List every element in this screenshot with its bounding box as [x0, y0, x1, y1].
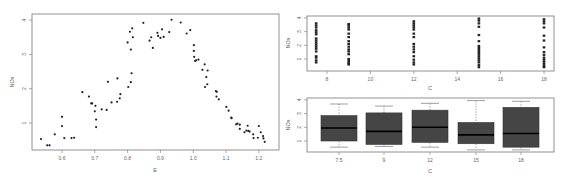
strip-c-point — [478, 22, 481, 24]
scatter-e-ytick-label: 1 — [21, 121, 27, 124]
scatter-e-point — [157, 35, 159, 37]
scatter-e-point — [218, 98, 220, 100]
strip-c-point — [543, 26, 546, 28]
scatter-e-point — [116, 77, 118, 79]
strip-c-point — [413, 20, 416, 22]
box-c-ytick-label: 2 — [296, 126, 302, 129]
strip-c-point — [315, 29, 318, 31]
scatter-e-xtick-label: 0.7 — [91, 155, 98, 161]
scatter-e-point — [46, 144, 48, 146]
box-c-box-group — [321, 104, 357, 147]
scatter-e-frame — [32, 14, 279, 150]
strip-c-point — [315, 24, 318, 26]
strip-c-point — [413, 33, 416, 35]
scatter-e-point — [119, 93, 121, 95]
scatter-e-point — [48, 144, 50, 146]
box-c-xtick-label: 15 — [473, 157, 479, 163]
scatter-e-point — [163, 36, 165, 38]
strip-c-point — [413, 43, 416, 45]
box-c-xtick-label: 9 — [383, 157, 386, 163]
strip-c-point — [347, 58, 350, 60]
box-c-ytick-label: 1 — [296, 139, 302, 142]
scatter-e-point — [239, 128, 241, 130]
strip-c-point — [543, 63, 546, 65]
strip-c-point — [347, 43, 350, 45]
box-c-box-group — [412, 103, 448, 147]
strip-c-point — [478, 26, 481, 28]
strip-c-point — [413, 55, 416, 57]
scatter-e-point — [101, 108, 103, 110]
strip-c-point — [543, 46, 546, 48]
scatter-e-point — [230, 117, 232, 119]
scatter-e-point — [204, 63, 206, 65]
scatter-e-point — [262, 137, 264, 139]
strip-c-xtick-label: 8 — [326, 76, 329, 82]
strip-c-point — [347, 40, 350, 42]
scatter-e-point — [216, 91, 218, 93]
scatter-e-point — [245, 129, 247, 131]
strip-c-point — [413, 61, 416, 63]
strip-c-point — [315, 48, 318, 50]
strip-c-point — [478, 45, 481, 47]
scatter-e-point — [257, 137, 259, 139]
strip-c-xtick-label: 14 — [454, 76, 460, 82]
strip-c-point — [315, 61, 318, 63]
strip-c-ytick-label: 4 — [296, 16, 302, 19]
strip-c-ytick-label: 3 — [296, 30, 302, 33]
box-c-xtick-label: 12 — [427, 157, 433, 163]
strip-c-xtick-label: 12 — [411, 76, 417, 82]
strip-c-point — [478, 64, 481, 66]
box-c-box-group — [458, 101, 494, 150]
strip-c-frame — [307, 16, 554, 71]
strip-c-point — [347, 26, 350, 28]
strip-c-point — [478, 55, 481, 57]
scatter-e-point — [168, 31, 170, 33]
scatter-e-point — [91, 102, 93, 104]
scatter-e-point — [252, 137, 254, 139]
scatter-e-point — [243, 131, 245, 133]
scatter-e-point — [110, 101, 112, 103]
strip-c-point — [347, 48, 350, 50]
scatter-e-point — [258, 125, 260, 127]
scatter-e-point — [205, 76, 207, 78]
strip-c-point — [413, 46, 416, 48]
scatter-e-point — [264, 141, 266, 143]
box-c-box — [458, 123, 494, 144]
box-c-box — [366, 113, 402, 145]
scatter-e-point — [150, 36, 152, 38]
strip-c-point — [413, 51, 416, 53]
scatter-e-point — [130, 48, 132, 50]
scatter-e-point — [132, 36, 134, 38]
scatter-e-point — [204, 86, 206, 88]
strip-c-point — [413, 28, 416, 30]
strip-c-point — [543, 20, 546, 22]
scatter-e-point — [215, 95, 217, 97]
scatter-e-point — [63, 137, 65, 139]
box-c-xtick-label: 18 — [518, 157, 524, 163]
strip-c-point — [315, 31, 318, 33]
scatter-e-point — [94, 110, 96, 112]
scatter-e-xtick-label: 0.6 — [59, 155, 66, 161]
strip-c-xtick-label: 16 — [498, 76, 504, 82]
scatter-e-point — [94, 105, 96, 107]
scatter-e-point — [119, 97, 121, 99]
strip-c-point — [543, 54, 546, 56]
scatter-e-point — [129, 31, 131, 33]
strip-c-xlabel: C — [428, 85, 432, 91]
figure-canvas: 0.60.70.80.91.01.11.2 1234 E NOx 8101214… — [0, 0, 564, 182]
scatter-e-ylabel: NOx — [9, 76, 15, 87]
scatter-e-point — [81, 91, 83, 93]
strip-c-xtick-label: 10 — [368, 76, 374, 82]
strip-c-point — [543, 59, 546, 61]
scatter-e-point — [197, 58, 199, 60]
strip-c-panel: 81012141618 1234 C NOx — [285, 16, 554, 91]
strip-c-point — [478, 51, 481, 53]
scatter-e-point — [95, 118, 97, 120]
strip-c-point — [478, 47, 481, 49]
scatter-e-point — [40, 138, 42, 140]
scatter-e-point — [148, 40, 150, 42]
scatter-e-xtick-label: 0.8 — [124, 155, 131, 161]
strip-c-point — [543, 22, 546, 24]
scatter-e-point — [236, 123, 238, 125]
scatter-e-point — [130, 81, 132, 83]
